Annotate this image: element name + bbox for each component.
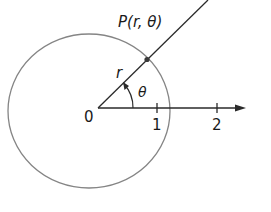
point-label: P(r, θ) xyxy=(118,13,162,31)
origin-label: 0 xyxy=(84,108,94,126)
point-p xyxy=(144,57,149,62)
axis-arrowhead-icon xyxy=(235,105,246,112)
tick-label-2: 2 xyxy=(212,116,222,134)
radius-label: r xyxy=(116,64,123,82)
polar-diagram: P(r, θ) r θ 0 1 2 xyxy=(0,0,271,212)
tick-label-1: 1 xyxy=(152,116,162,134)
angle-label: θ xyxy=(138,84,147,100)
